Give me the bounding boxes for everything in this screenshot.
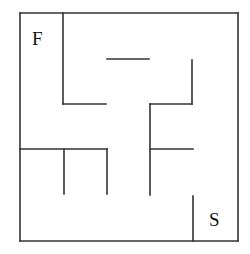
start-label: S: [209, 209, 220, 230]
finish-label: F: [32, 28, 43, 49]
maze-diagram: F S: [0, 0, 250, 254]
